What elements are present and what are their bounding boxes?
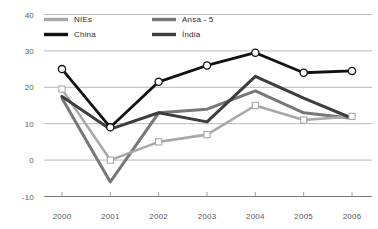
- x-axis-tick-labels: 2000200120022003200420052006: [53, 212, 362, 221]
- x-axis: [44, 192, 372, 197]
- marker-china: [252, 49, 259, 56]
- y-tick-label: 40: [25, 11, 35, 20]
- marker-china: [155, 78, 162, 85]
- y-tick-label: 0: [29, 156, 34, 165]
- data-series-group: [62, 53, 352, 182]
- legend-label-ansa-5: Ansa - 5: [182, 15, 214, 24]
- x-tick-label: 2000: [53, 212, 72, 221]
- y-tick-label: 30: [25, 47, 35, 56]
- legend-label-ndia: Índia: [182, 30, 201, 39]
- x-tick-label: 2004: [246, 212, 265, 221]
- chart-container: 403020100-10 200020012002200320042005200…: [0, 0, 378, 229]
- legend-label-nies: NIEs: [74, 15, 92, 24]
- marker-china: [58, 66, 65, 73]
- y-tick-label: -10: [22, 193, 35, 202]
- chart-legend: NIEsAnsa - 5ChinaÍndia: [44, 15, 214, 39]
- marker-nies: [59, 86, 65, 92]
- x-tick-label: 2005: [294, 212, 313, 221]
- y-tick-label: 20: [25, 83, 35, 92]
- marker-nies: [156, 139, 162, 145]
- y-axis-tick-labels: 403020100-10: [22, 11, 35, 202]
- marker-china: [203, 62, 210, 69]
- data-markers-group: [58, 49, 355, 163]
- marker-nies: [204, 132, 210, 138]
- marker-nies: [107, 157, 113, 163]
- x-tick-label: 2001: [101, 212, 120, 221]
- line-chart: 403020100-10 200020012002200320042005200…: [0, 0, 378, 229]
- marker-china: [348, 67, 355, 74]
- legend-label-china: China: [74, 30, 96, 39]
- x-tick-label: 2006: [343, 212, 362, 221]
- x-tick-label: 2002: [149, 212, 168, 221]
- marker-nies: [252, 102, 258, 108]
- marker-china: [300, 69, 307, 76]
- x-tick-label: 2003: [198, 212, 217, 221]
- y-tick-label: 10: [25, 120, 35, 129]
- marker-nies: [301, 117, 307, 123]
- marker-china: [107, 124, 114, 131]
- marker-nies: [349, 113, 355, 119]
